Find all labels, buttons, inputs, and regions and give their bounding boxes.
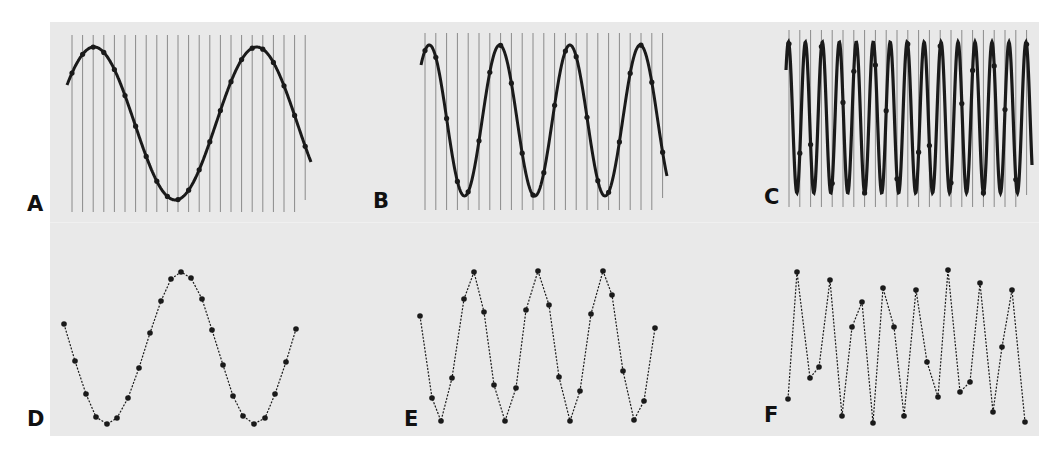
sampled-curve-d bbox=[61, 269, 299, 427]
panel-label-f: F bbox=[764, 403, 778, 427]
sampled-curve-f bbox=[785, 267, 1028, 426]
sampled-curve-e bbox=[417, 268, 658, 424]
panel-label-b: B bbox=[373, 189, 389, 213]
panel-label-c: C bbox=[764, 185, 779, 209]
panel-label-a: A bbox=[27, 192, 43, 216]
sample-lines-a bbox=[72, 35, 305, 212]
panel-label-e: E bbox=[404, 407, 418, 431]
sampling-figure bbox=[0, 0, 1059, 453]
panel-label-d: D bbox=[27, 407, 44, 431]
sample-lines-b bbox=[425, 33, 663, 210]
